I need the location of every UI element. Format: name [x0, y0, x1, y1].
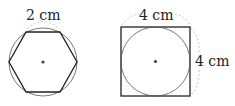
top-dimension-arc-right [171, 14, 190, 25]
circle-in-square-figure: 4 cm 4 cm [121, 7, 229, 96]
hexagon-side-label: 2 cm [26, 7, 60, 23]
geometry-diagram: 2 cm 4 cm 4 cm [0, 0, 235, 106]
center-point [154, 60, 157, 63]
square-right-label: 4 cm [195, 53, 229, 69]
top-dimension-arc-left [122, 14, 140, 25]
right-dimension-arc-top [191, 28, 199, 52]
square-top-label: 4 cm [139, 7, 173, 23]
center-point [41, 60, 44, 63]
hexagon-in-circle-figure: 2 cm [9, 7, 77, 96]
right-dimension-arc-bottom [191, 70, 199, 95]
